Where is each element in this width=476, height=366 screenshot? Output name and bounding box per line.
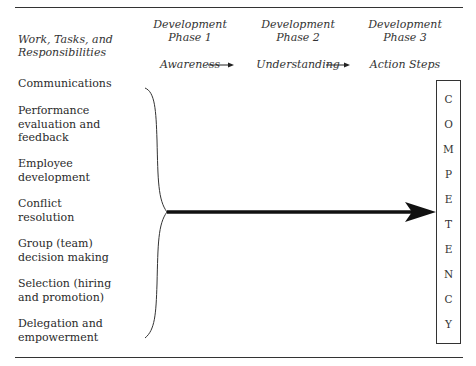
arrow-awareness-to-understanding <box>208 63 234 68</box>
competency-letter: T <box>437 218 460 230</box>
competency-letter: P <box>437 168 460 180</box>
competency-letter: C <box>437 93 460 105</box>
competency-letter: M <box>437 143 460 155</box>
competency-letter: Y <box>437 318 460 330</box>
main-arrow-icon <box>167 202 436 222</box>
competency-letter: C <box>437 293 460 305</box>
competency-box: C O M P E T E N C Y <box>436 80 461 344</box>
competency-letter: O <box>437 118 460 130</box>
competency-letter: E <box>437 193 460 205</box>
arrow-understanding-to-action <box>326 63 350 68</box>
competency-letter: N <box>437 268 460 280</box>
competency-letter: E <box>437 243 460 255</box>
brace-icon <box>145 88 167 338</box>
diagram-graphics <box>0 0 476 366</box>
